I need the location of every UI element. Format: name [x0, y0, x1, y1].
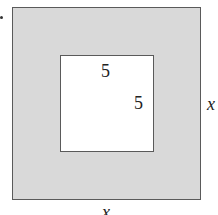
bullet-dot	[0, 16, 3, 19]
outer-right-side-label: x	[207, 95, 215, 113]
inner-top-side-label: 5	[101, 62, 110, 80]
outer-bottom-side-label: x	[102, 203, 110, 215]
inner-right-side-label: 5	[134, 94, 143, 112]
